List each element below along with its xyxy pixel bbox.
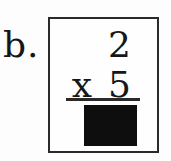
hidden-answer-box [84, 105, 137, 146]
flashcard-box: 2 x 5 [48, 17, 159, 153]
item-label: b. [3, 27, 40, 63]
worksheet-scan: b. 2 x 5 [0, 0, 171, 161]
top-operand: 2 [108, 27, 131, 63]
equals-line [66, 98, 140, 101]
